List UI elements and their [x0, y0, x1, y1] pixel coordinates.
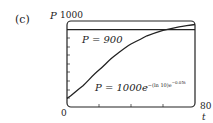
curve-annotation-main: P = 1000e	[95, 82, 148, 93]
curve-annotation-exp2: −0.05t	[172, 80, 186, 85]
p-900-annotation: P = 900	[82, 35, 123, 45]
curve-annotation-exp: −(ln 10)e	[148, 82, 172, 88]
curve-annotation: P = 1000e−(ln 10)e−0.05t	[95, 81, 186, 93]
plot-area	[0, 0, 213, 123]
